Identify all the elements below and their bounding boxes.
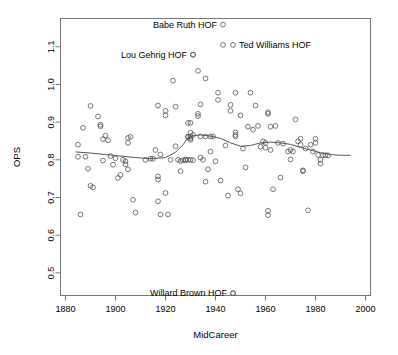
x-tick-label-1920: 1920	[155, 304, 175, 314]
y-tick-label-0.5: 0.5	[47, 267, 57, 280]
annotated-point-willard-brown	[231, 291, 236, 296]
y-tick-label-1.0: 1.0	[47, 78, 57, 91]
data-point	[306, 208, 311, 213]
data-point	[103, 133, 108, 138]
data-point	[256, 124, 261, 129]
data-point	[216, 98, 221, 103]
data-point	[263, 145, 268, 150]
data-point	[166, 212, 171, 217]
data-point	[156, 103, 161, 108]
annotated-point-babe-ruth	[221, 22, 226, 27]
data-point	[278, 175, 283, 180]
data-point	[108, 154, 113, 159]
data-point	[233, 90, 238, 95]
data-point	[213, 159, 218, 164]
x-tick-label-1880: 1880	[55, 304, 75, 314]
data-point	[113, 156, 118, 161]
data-point	[111, 162, 116, 167]
data-point	[163, 108, 168, 113]
x-tick-label-1980: 1980	[305, 304, 325, 314]
data-point	[266, 213, 271, 218]
data-point	[316, 153, 321, 158]
data-point	[96, 114, 101, 119]
data-point	[266, 208, 271, 213]
data-point	[106, 138, 111, 143]
data-point	[101, 137, 106, 142]
data-point	[123, 162, 128, 167]
data-point	[131, 197, 136, 202]
data-point	[156, 177, 161, 182]
y-tick-label-0.6: 0.6	[47, 229, 57, 242]
plot-canvas: 18801900192019401960198020000.50.60.70.8…	[0, 0, 398, 355]
data-point	[243, 165, 248, 170]
data-point	[228, 102, 233, 107]
data-point	[288, 157, 293, 162]
data-points-group	[76, 42, 331, 295]
data-point	[203, 76, 208, 81]
data-point	[268, 148, 273, 153]
scatter-plot-figure: 18801900192019401960198020000.50.60.70.8…	[0, 0, 398, 355]
data-point	[218, 178, 223, 183]
data-point	[221, 42, 226, 47]
data-point	[226, 193, 231, 198]
y-tick-label-0.8: 0.8	[47, 154, 57, 167]
data-point	[168, 157, 173, 162]
data-point	[156, 199, 161, 204]
annotated-point-ted-williams	[231, 42, 236, 47]
annotated-point-lou-gehrig	[191, 52, 196, 57]
data-point	[153, 148, 158, 153]
data-point	[83, 154, 88, 159]
data-point	[203, 134, 208, 139]
data-point	[81, 125, 86, 130]
annotation-label-ted-williams: Ted Williams HOF	[239, 40, 312, 50]
data-point	[208, 149, 213, 154]
data-point	[308, 142, 313, 147]
data-point	[178, 169, 183, 174]
data-point	[163, 113, 168, 118]
data-point	[251, 127, 256, 132]
x-axis-title: MidCareer	[193, 329, 237, 340]
data-point	[238, 191, 243, 196]
data-point	[241, 146, 246, 151]
data-point	[198, 102, 203, 107]
x-tick-label-1900: 1900	[105, 304, 125, 314]
data-point	[78, 212, 83, 217]
data-point	[173, 104, 178, 109]
y-tick-label-0.9: 0.9	[47, 116, 57, 129]
data-point	[223, 143, 228, 148]
data-point	[76, 142, 81, 147]
data-point	[268, 124, 273, 129]
data-point	[163, 191, 168, 196]
data-point	[158, 152, 163, 157]
data-point	[238, 113, 243, 118]
data-point	[171, 78, 176, 83]
data-point	[258, 144, 263, 149]
data-point	[253, 103, 258, 108]
data-point	[293, 117, 298, 122]
data-point	[173, 144, 178, 149]
annotation-label-willard-brown: Willard Brown HOF	[150, 288, 228, 298]
y-tick-label-1.1: 1.1	[47, 41, 57, 54]
data-point	[126, 140, 131, 145]
x-tick-label-1960: 1960	[255, 304, 275, 314]
data-point	[271, 187, 276, 192]
data-point	[88, 104, 93, 109]
x-tick-label-2000: 2000	[355, 304, 375, 314]
data-point	[101, 158, 106, 163]
data-point	[133, 210, 138, 215]
data-point	[203, 179, 208, 184]
data-point	[158, 212, 163, 217]
data-point	[196, 68, 201, 73]
data-point	[246, 124, 251, 129]
data-point	[116, 176, 121, 181]
data-point	[206, 167, 211, 172]
annotation-label-lou-gehrig: Lou Gehrig HOF	[121, 50, 188, 60]
data-point	[86, 166, 91, 171]
data-point	[216, 90, 221, 95]
y-tick-label-0.7: 0.7	[47, 191, 57, 204]
x-tick-label-1940: 1940	[205, 304, 225, 314]
data-point	[76, 154, 81, 159]
data-point	[118, 173, 123, 178]
data-point	[126, 167, 131, 172]
data-point	[248, 90, 253, 95]
